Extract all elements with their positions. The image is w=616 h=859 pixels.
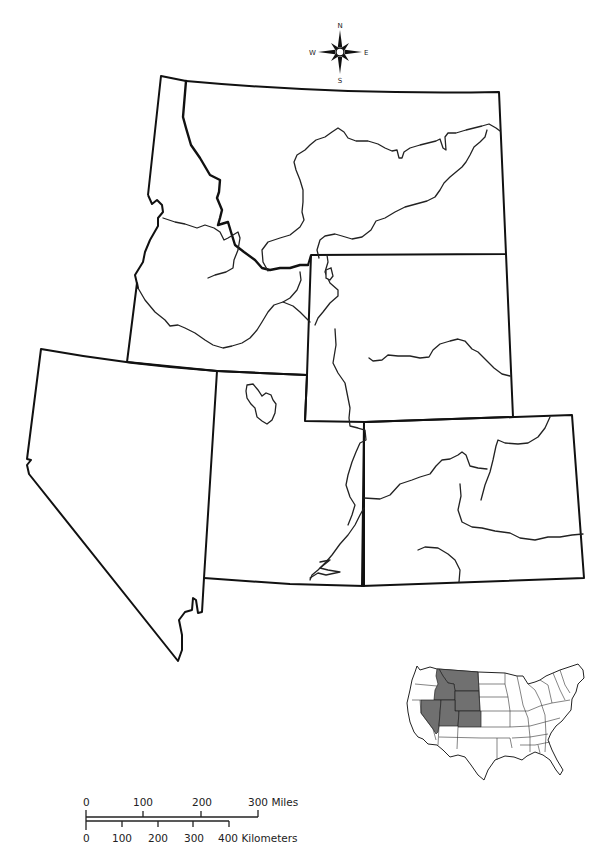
idaho-oregon-river-border [135, 195, 163, 288]
lake-yellowstone [326, 268, 333, 280]
scale-miles-tick-100: 100 [133, 796, 153, 808]
river-snake-east [283, 302, 310, 322]
locator-inset-map [407, 664, 584, 780]
scale-km-tick-300: 300 [184, 832, 204, 844]
state-nevada [27, 349, 217, 661]
scale-miles-tick-0: 0 [83, 796, 90, 808]
river-snake [138, 272, 301, 348]
river-yellowstone [317, 130, 487, 258]
map-canvas: N S W E [0, 0, 616, 859]
state-colorado [362, 415, 584, 586]
scale-bar: 0 100 200 300 Miles 0 100 200 300 400 Ki… [83, 796, 298, 844]
river-rio-grande [418, 547, 460, 582]
compass-rose: N S W E [309, 22, 368, 85]
river-green [333, 329, 366, 525]
river-arkansas [458, 484, 583, 540]
river-wyoming-west [315, 255, 338, 325]
compass-west-label: W [309, 49, 316, 57]
river-missouri [262, 124, 500, 271]
compass-rose-icon [318, 30, 362, 74]
inset-highlight-wyoming [455, 691, 480, 711]
scale-km-tick-0: 0 [83, 832, 90, 844]
idaho-montana-border [183, 81, 308, 270]
compass-north-label: N [338, 22, 343, 30]
scale-km-tick-400: 400 Kilometers [218, 832, 298, 844]
compass-south-label: S [338, 77, 343, 85]
compass-east-label: E [364, 49, 368, 57]
inset-highlight-colorado [458, 711, 481, 727]
scale-miles-tick-300: 300 Miles [248, 796, 298, 808]
river-colorado-lower [310, 508, 364, 580]
river-south-platte [481, 417, 550, 500]
scale-km-tick-200: 200 [148, 832, 168, 844]
scale-km-tick-100: 100 [112, 832, 132, 844]
state-utah [204, 371, 364, 586]
lake-great-salt-lake [246, 384, 276, 424]
river-colorado [364, 452, 487, 499]
scale-miles-tick-200: 200 [192, 796, 212, 808]
river-north-platte [369, 339, 510, 376]
